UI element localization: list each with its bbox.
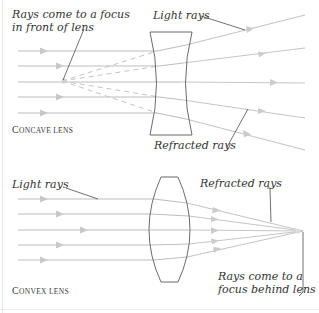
concave-caption: Concave lens: [12, 124, 73, 135]
convex-refracted-rays-label: Refracted rays: [200, 177, 282, 190]
convex-focus-label: Rays come to a focus behind lens: [218, 270, 316, 296]
convex-caption: Convex lens: [12, 285, 69, 296]
concave-incoming-rays: [18, 51, 160, 113]
convex-refracted-rays: [187, 203, 303, 257]
concave-refracted-arrows: [243, 26, 278, 138]
diagram-canvas: [0, 0, 319, 313]
concave-lens: [150, 32, 192, 135]
concave-focus-label-line2: in front of lens: [12, 21, 130, 34]
convex-focus-label-line1: Rays come to a: [218, 270, 316, 283]
convex-light-rays-label: Light rays: [12, 178, 69, 191]
concave-caption-initial: C: [12, 124, 19, 135]
lens-diagram: Rays come to a focus in front of lens Li…: [0, 0, 319, 313]
concave-focus-label-line1: Rays come to a focus: [12, 8, 130, 21]
concave-focus-label: Rays come to a focus in front of lens: [12, 8, 130, 34]
concave-refracted-rays: [181, 15, 305, 150]
convex-focus-label-line2: focus behind lens: [218, 283, 316, 296]
convex-focus-point: [296, 229, 301, 234]
convex-caption-initial: C: [12, 285, 19, 296]
convex-rays-inside-lens: [150, 199, 190, 260]
convex-caption-rest: onvex lens: [19, 287, 69, 296]
concave-focus-point: [62, 79, 67, 84]
concave-caption-rest: oncave lens: [19, 126, 73, 135]
concave-refracted-rays-label: Refracted rays: [154, 139, 236, 152]
concave-light-rays-label: Light rays: [153, 9, 210, 22]
